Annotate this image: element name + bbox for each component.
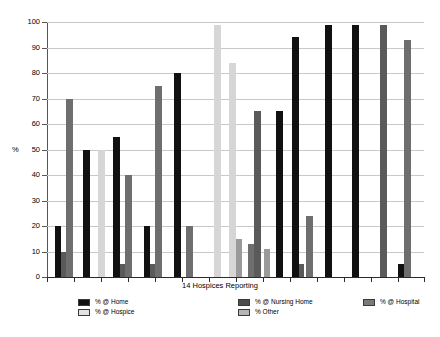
y-tick-label-30: 30	[10, 197, 40, 205]
x-axis-title: 14 Hospices Reporting	[0, 281, 440, 290]
y-tick-label-100: 100	[10, 18, 40, 26]
legend-entry: % @ Hospice	[78, 308, 134, 316]
y-tick-label-60: 60	[10, 120, 40, 128]
plot-area	[47, 22, 424, 277]
gridline-90	[47, 48, 424, 49]
y-tick-label-10: 10	[10, 248, 40, 256]
y-tick-label-70: 70	[10, 95, 40, 103]
bar	[254, 111, 261, 277]
bar-chart-figure: % 0102030405060708090100 14 Hospices Rep…	[0, 0, 440, 337]
bar	[352, 25, 359, 277]
bar	[264, 249, 270, 277]
bar	[113, 137, 120, 277]
legend-swatch-icon	[238, 309, 250, 316]
bar	[325, 25, 332, 277]
y-tick-label-80: 80	[10, 69, 40, 77]
bar	[155, 86, 162, 277]
legend-swatch-icon	[238, 299, 250, 306]
legend-swatch-icon	[78, 299, 90, 306]
bar	[214, 25, 221, 277]
legend-entry: % Other	[238, 308, 279, 316]
y-tick-label-50: 50	[10, 146, 40, 154]
y-tick-label-40: 40	[10, 171, 40, 179]
gridline-100	[47, 22, 424, 23]
chart-legend: % @ Home% @ Hospice% @ Nursing Home% Oth…	[78, 298, 408, 324]
legend-entry: % @ Hospital	[363, 298, 419, 306]
y-tick-label-20: 20	[10, 222, 40, 230]
legend-label: % @ Hospital	[380, 298, 419, 306]
legend-label: % @ Home	[95, 298, 128, 306]
bar	[292, 37, 299, 277]
bar	[229, 63, 236, 277]
legend-label: % Other	[255, 308, 279, 316]
legend-label: % @ Nursing Home	[255, 298, 313, 306]
bar	[186, 226, 193, 277]
legend-entry: % @ Home	[78, 298, 128, 306]
y-tick-label-90: 90	[10, 44, 40, 52]
legend-entry: % @ Nursing Home	[238, 298, 313, 306]
legend-swatch-icon	[78, 309, 90, 316]
bar	[98, 150, 105, 278]
bar	[236, 239, 242, 277]
bar	[83, 150, 90, 278]
bar	[380, 25, 387, 277]
bar	[306, 216, 313, 277]
bar	[125, 175, 132, 277]
bar	[404, 40, 411, 277]
bar	[276, 111, 283, 277]
legend-label: % @ Hospice	[95, 308, 134, 316]
y-tick-label-0: 0	[10, 273, 40, 281]
bar	[299, 264, 304, 277]
legend-swatch-icon	[363, 299, 375, 306]
bar	[174, 73, 181, 277]
bar	[66, 99, 73, 278]
